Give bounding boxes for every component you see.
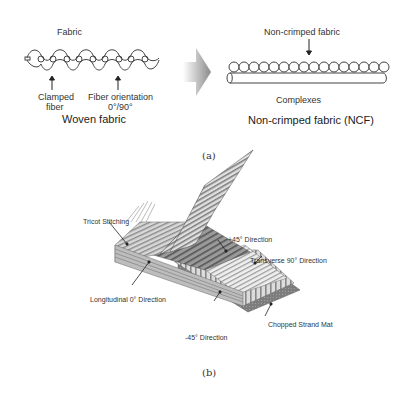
chopped-strand-mat-label: Chopped Strand Mat	[268, 321, 333, 328]
caption-b: (b)	[202, 368, 216, 378]
minus45-direction-label: -45° Direction	[185, 334, 227, 341]
longitudinal-0-direction-label: Longitudinal 0° Direction	[90, 296, 166, 303]
transverse-90-direction-label: Transverse 90° Direction	[250, 257, 327, 264]
tricot-stitching-label: Tricot Stitching	[83, 218, 129, 225]
plus45-direction-label: +45° Direction	[228, 236, 272, 243]
